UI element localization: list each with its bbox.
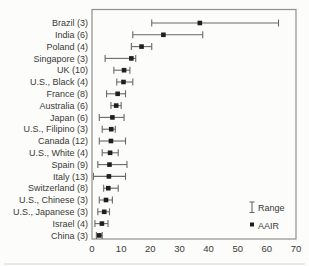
x-tick-label: 40	[203, 243, 214, 254]
legend-range-label: Range	[258, 203, 285, 213]
aair-marker	[102, 210, 107, 215]
data-row: Switzerland (8)	[28, 183, 118, 193]
data-row: U.S., Chinese (3)	[19, 195, 112, 205]
row-label: Italy (13)	[53, 172, 88, 182]
data-row: Italy (13)	[53, 172, 126, 182]
aair-marker	[129, 56, 134, 61]
data-row: Spain (9)	[51, 160, 127, 170]
data-row: Singapore (3)	[33, 54, 135, 64]
row-label: Japan (6)	[50, 113, 88, 123]
row-label: Spain (9)	[51, 160, 88, 170]
aair-marker	[122, 68, 127, 73]
aair-marker	[114, 103, 119, 108]
chart-figure: Brazil (3)India (6)Poland (4)Singapore (…	[0, 0, 309, 266]
row-label: France (8)	[46, 89, 88, 99]
x-tick-label: 20	[145, 243, 156, 254]
row-label: UK (10)	[57, 65, 88, 75]
aair-marker	[115, 92, 120, 97]
row-label: U.S., Chinese (3)	[19, 195, 88, 205]
row-label: U.S., Filipino (3)	[23, 124, 88, 134]
aair-marker	[161, 33, 166, 38]
row-label: U.S., Black (4)	[30, 77, 88, 87]
aair-marker	[100, 221, 105, 226]
aair-marker	[139, 44, 144, 49]
row-label: Switzerland (8)	[28, 183, 88, 193]
data-row: U.S., Japanese (3)	[13, 207, 110, 217]
aair-marker	[104, 198, 109, 203]
filled-square-icon	[250, 223, 254, 227]
row-label: Poland (4)	[46, 42, 88, 52]
data-row: France (8)	[46, 89, 125, 99]
row-label: Brazil (3)	[52, 18, 88, 28]
aair-marker	[121, 80, 126, 85]
row-label: India (6)	[55, 30, 88, 40]
aair-marker	[106, 186, 111, 191]
x-tick-label: 30	[174, 243, 185, 254]
scan-artifact-line	[4, 263, 305, 265]
x-tick-label: 0	[89, 243, 94, 254]
aair-marker	[110, 115, 115, 120]
data-row: U.S., Filipino (3)	[23, 124, 115, 134]
data-row: U.S., Black (4)	[30, 77, 133, 87]
data-row: India (6)	[55, 30, 203, 40]
aair-marker	[107, 174, 112, 179]
row-label: China (3)	[51, 231, 88, 241]
data-row: Brazil (3)	[52, 18, 279, 28]
row-label: U.S., Japanese (3)	[13, 207, 88, 217]
data-row: Israel (4)	[52, 219, 108, 229]
legend: RangeAAIR	[250, 202, 285, 231]
dot-plot-canvas: Brazil (3)India (6)Poland (4)Singapore (…	[0, 0, 309, 266]
aair-marker	[198, 21, 203, 26]
data-row: Poland (4)	[46, 42, 151, 52]
aair-marker	[109, 139, 114, 144]
row-label: U.S., White (4)	[29, 148, 88, 158]
data-row: Japan (6)	[50, 113, 124, 123]
row-label: Israel (4)	[52, 219, 88, 229]
data-row: U.S., White (4)	[29, 148, 118, 158]
aair-marker	[97, 233, 102, 238]
x-tick-label: 10	[116, 243, 127, 254]
x-tick-label: 70	[291, 243, 302, 254]
row-label: Singapore (3)	[33, 54, 88, 64]
data-row: UK (10)	[57, 65, 130, 75]
legend-aair-label: AAIR	[258, 221, 280, 231]
x-tick-label: 50	[232, 243, 243, 254]
row-label: Australia (6)	[39, 101, 88, 111]
aair-marker	[109, 127, 114, 132]
data-row: Australia (6)	[39, 101, 121, 111]
aair-marker	[107, 162, 112, 167]
row-label: Canada (12)	[38, 136, 88, 146]
aair-marker	[108, 151, 113, 156]
data-row: Canada (12)	[38, 136, 126, 146]
x-tick-label: 60	[262, 243, 273, 254]
